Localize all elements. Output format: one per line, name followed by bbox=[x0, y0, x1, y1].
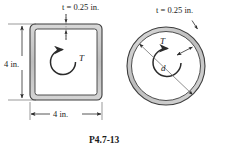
figure-container: t = 0.25 in. t = 0.25 in. 4 in. 4 in. T … bbox=[0, 0, 226, 157]
figure-caption: P4.7-13 bbox=[89, 136, 119, 146]
circular-tube-inner-bore bbox=[132, 32, 201, 101]
square-thickness-label: t = 0.25 in. bbox=[62, 3, 99, 12]
circular-tube-group bbox=[127, 27, 205, 105]
square-torque-label: T bbox=[79, 54, 84, 63]
circular-torque-label: T bbox=[160, 37, 165, 46]
circular-thickness-label: t = 0.25 in. bbox=[156, 6, 193, 15]
circular-diameter-label: d bbox=[161, 64, 166, 73]
figure-drawing bbox=[0, 0, 226, 157]
square-width-label: 4 in. bbox=[53, 110, 68, 119]
square-height-label: 4 in. bbox=[4, 60, 19, 69]
